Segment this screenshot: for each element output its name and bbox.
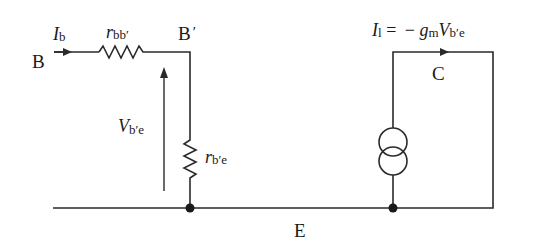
junction-dot-rbe [186,204,195,213]
collector-node-label: C [432,63,445,84]
rbb-label: rbb′ [106,22,129,42]
current-source-icon [379,128,407,208]
circuit-diagram: B Ib rbb′ B′ Vb′e rb′e Il = − gmVb′e C E [0,0,542,245]
internal-base-node-label: B′ [178,23,196,44]
rbe-label: rb′e [205,147,227,167]
base-node-label: B [32,51,45,72]
junction-dot-source [389,204,398,213]
collector-current-arrow-icon [440,48,449,56]
vbe-label: Vb′e [118,116,144,137]
base-current-arrow-icon [54,48,72,56]
resistor-rbe-icon [184,136,196,180]
emitter-node-label: E [294,220,306,241]
vbe-voltage-arrow-icon [160,67,168,191]
base-current-label: Ib [52,24,66,44]
resistor-rbb-icon [99,46,145,58]
internal-base-wire [145,52,190,136]
current-source-expression: Il = − gmVb′e [371,20,465,40]
